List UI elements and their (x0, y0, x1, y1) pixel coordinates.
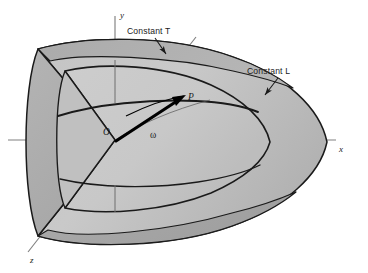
diagram-svg (0, 0, 368, 273)
figure-canvas: Constant T Constant L y x z O P ω (0, 0, 368, 273)
shell-group (26, 39, 327, 244)
